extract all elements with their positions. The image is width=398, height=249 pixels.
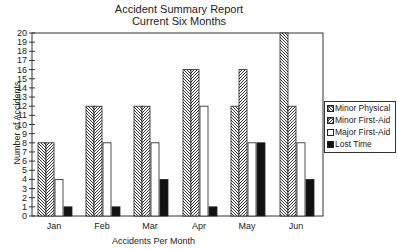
bar-major-first-aid-jun [297,143,305,216]
bar-minor-physical-may [231,106,239,216]
bar-lost-time-feb [112,207,120,216]
bar-major-first-aid-jan [55,179,63,216]
swatch-slash-icon [327,117,334,124]
bar-major-first-aid-mar [151,143,159,216]
y-tick-label: 0 [22,211,27,221]
x-tick-label: Mar [142,221,158,231]
y-tick-label: 17 [17,55,27,65]
bar-minor-first-aid-jan [46,143,54,216]
x-tick-label: May [238,221,256,231]
bar-lost-time-mar [160,179,168,216]
y-tick-label: 8 [22,138,27,148]
swatch-black-icon [327,141,334,148]
legend-item-lost-time: Lost Time [327,138,395,150]
y-axis-label: Number of Accidents [12,68,22,178]
bar-major-first-aid-may [248,143,256,216]
x-tick-label: Jun [289,221,304,231]
x-tick-label: Jan [47,221,62,231]
bar-minor-first-aid-apr [191,70,199,216]
bar-lost-time-jun [306,179,314,216]
y-tick-label: 19 [17,37,27,47]
y-tick-label: 1 [22,202,27,212]
bar-minor-first-aid-mar [142,106,150,216]
y-tick-label: 4 [22,174,27,184]
legend-item-major-first-aid: Major First-Aid [327,126,395,138]
x-axis-label: Accidents Per Month [112,236,195,246]
bar-major-first-aid-feb [103,143,111,216]
bar-minor-first-aid-jun [288,106,296,216]
legend-item-minor-first-aid: Minor First-Aid [327,114,395,126]
y-tick-label: 5 [22,165,27,175]
plot-frame [32,33,323,216]
bar-major-first-aid-apr [200,106,208,216]
swatch-white-icon [327,129,334,136]
bar-minor-physical-mar [134,106,142,216]
bar-minor-physical-jan [38,143,46,216]
x-tick-label: Feb [94,221,110,231]
x-tick-label: Apr [192,221,206,231]
legend: Minor Physical Minor First-Aid Major Fir… [324,101,396,153]
y-tick-label: 9 [22,129,27,139]
y-tick-label: 18 [17,46,27,56]
bar-minor-first-aid-feb [94,106,102,216]
bar-minor-physical-jun [280,33,288,216]
bar-minor-physical-feb [86,106,94,216]
bar-lost-time-may [257,143,265,216]
y-tick-label: 7 [22,147,27,157]
y-tick-label: 2 [22,193,27,203]
y-tick-label: 3 [22,184,27,194]
y-tick-label: 20 [17,28,27,38]
bar-minor-physical-apr [183,70,191,216]
bar-lost-time-apr [209,207,217,216]
bar-minor-first-aid-may [239,70,247,216]
bar-lost-time-jan [64,207,72,216]
legend-item-minor-physical: Minor Physical [327,102,395,114]
swatch-backslash-icon [327,105,334,112]
y-tick-label: 6 [22,156,27,166]
